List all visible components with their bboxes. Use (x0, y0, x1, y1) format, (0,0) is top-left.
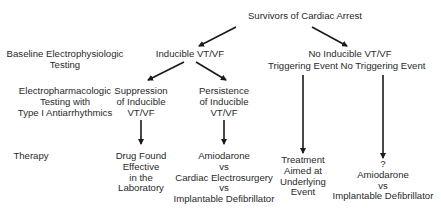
node-persistence: Persistence of Inducible VT/VF (199, 86, 249, 118)
row-label-line: Testing (7, 60, 124, 71)
node-line: of Inducible (114, 97, 167, 108)
therapy-line: Implantable Defibrillator (333, 191, 434, 202)
root-node: Survivors of Cardiac Arrest (248, 11, 362, 22)
node-line: of Inducible (199, 97, 249, 108)
arrow-inducible-to-persistence (196, 62, 226, 80)
therapy-amiodarone-two: ? Amiodarone vs Implantable Defibrillato… (333, 159, 434, 202)
node-triggering-event: Triggering Event (268, 61, 338, 72)
therapy-line: Event (280, 187, 326, 198)
arrow-root-to-no-inducible (312, 27, 347, 46)
node-label: Triggering Event (268, 61, 338, 72)
therapy-line: Aimed at (280, 166, 326, 177)
therapy-line: vs (174, 162, 275, 173)
row-label-therapy: Therapy (13, 151, 48, 162)
therapy-line: Implantable Defibrillator (174, 194, 275, 205)
row-label-line: Therapy (13, 151, 48, 162)
node-line: VT/VF (114, 108, 167, 119)
root-label: Survivors of Cardiac Arrest (248, 11, 362, 22)
therapy-line: Amiodarone (333, 170, 434, 181)
row-label-baseline: Baseline Electrophysiologic Testing (7, 49, 124, 71)
node-inducible: Inducible VT/VF (156, 49, 224, 60)
node-no-inducible: No Inducible VT/VF (308, 49, 391, 60)
therapy-line: Effective (116, 162, 167, 173)
node-label: Inducible VT/VF (156, 49, 224, 60)
node-label: No Inducible VT/VF (308, 49, 391, 60)
row-label-electropharm: Electropharmacologic Testing with Type I… (18, 86, 112, 118)
node-no-triggering-event: No Triggering Event (341, 61, 426, 72)
arrow-inducible-to-suppression (148, 62, 184, 80)
row-label-line: Testing with (18, 97, 112, 108)
node-line: VT/VF (199, 108, 249, 119)
node-label: No Triggering Event (341, 61, 426, 72)
therapy-drug-found: Drug Found Effective in the Laboratory (116, 151, 167, 194)
therapy-amiodarone-three: Amiodarone vs Cardiac Electrosurgery vs … (174, 151, 275, 205)
row-label-line: Type I Antiarrhythmics (18, 108, 112, 119)
therapy-line: Laboratory (116, 183, 167, 194)
therapy-treatment-underlying: Treatment Aimed at Underlying Event (280, 155, 326, 198)
arrow-root-to-inducible (199, 27, 236, 46)
node-suppression: Suppression of Inducible VT/VF (114, 86, 167, 118)
